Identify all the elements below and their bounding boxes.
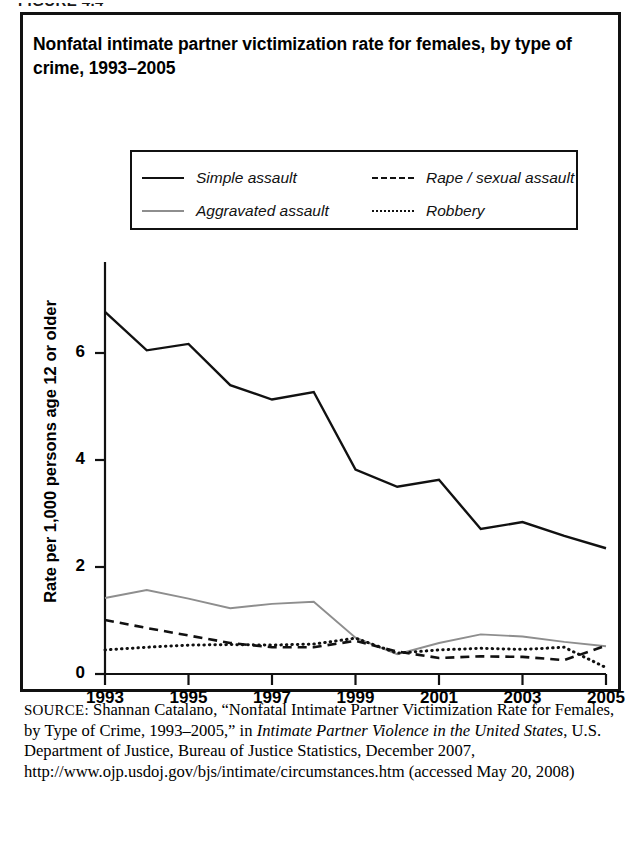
chart-series-layer xyxy=(105,312,606,668)
y-axis-ticks xyxy=(95,353,105,674)
y-tick-label: 6 xyxy=(59,342,85,362)
series-line-robbery xyxy=(105,638,606,667)
plot-area: Rate per 1,000 persons age 12 or older 0… xyxy=(20,12,621,692)
line-dotted-icon xyxy=(372,204,414,218)
source-prefix: SOURCE: xyxy=(24,702,89,718)
y-tick-label: 0 xyxy=(59,663,85,683)
line-solid-gray-icon xyxy=(142,204,184,218)
line-dashed-icon xyxy=(372,171,414,185)
series-line-rape-sexual-assault xyxy=(105,620,606,660)
legend-item-label: Robbery xyxy=(426,202,485,220)
y-tick-label: 2 xyxy=(59,556,85,576)
series-line-simple-assault xyxy=(105,312,606,548)
chart-legend: Simple assaultRape / sexual assaultAggra… xyxy=(130,150,578,230)
legend-item: Aggravated assault xyxy=(142,202,372,220)
legend-item-label: Aggravated assault xyxy=(196,202,329,220)
legend-item-label: Rape / sexual assault xyxy=(426,169,574,187)
source-note: SOURCE: Shannan Catalano, “Nonfatal Inti… xyxy=(24,700,624,782)
chart-svg xyxy=(20,12,621,692)
legend-item: Robbery xyxy=(372,202,590,220)
line-solid-dark-icon xyxy=(142,171,184,185)
legend-item: Simple assault xyxy=(142,169,372,187)
legend-item-label: Simple assault xyxy=(196,169,297,187)
chart-axes xyxy=(95,262,606,685)
y-axis-title: Rate per 1,000 persons age 12 or older xyxy=(41,272,60,632)
figure-page: FIGURE 4.4 Nonfatal intimate partner vic… xyxy=(0,0,642,855)
x-axis-ticks xyxy=(105,674,606,685)
series-line-aggravated-assault xyxy=(105,590,606,654)
figure-number-label: FIGURE 4.4 xyxy=(18,0,104,9)
y-tick-label: 4 xyxy=(59,449,85,469)
legend-item: Rape / sexual assault xyxy=(372,169,590,187)
source-italic-title: Intimate Partner Violence in the United … xyxy=(257,721,564,740)
